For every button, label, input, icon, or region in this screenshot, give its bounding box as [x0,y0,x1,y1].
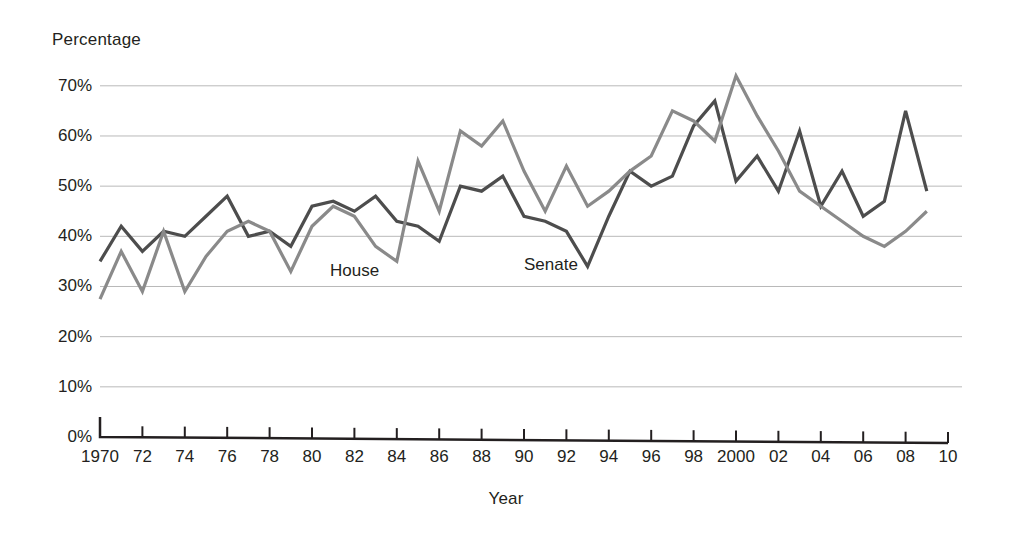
x-axis-tick-label: 1970 [81,447,119,467]
x-axis-tick-label: 98 [684,447,703,467]
y-axis-tick-label: 70% [40,76,92,96]
x-axis-tick-label: 04 [811,447,830,467]
x-axis-tick-label: 06 [854,447,873,467]
x-axis-tick-label: 10 [939,447,958,467]
x-axis-tick-label: 74 [175,447,194,467]
y-axis-tick-label: 30% [40,276,92,296]
gridlines [100,86,962,387]
x-axis-tick-label: 80 [303,447,322,467]
y-axis-tick-label: 50% [40,176,92,196]
series-line-house [100,101,927,267]
x-axis-tick-label: 88 [472,447,491,467]
series-line-senate [100,76,927,299]
y-axis-tick-label: 20% [40,327,92,347]
x-axis-tick-label: 72 [133,447,152,467]
y-axis-tick-label: 0% [40,427,92,447]
x-axis-tick-label: 94 [599,447,618,467]
y-axis-tick-label: 60% [40,126,92,146]
x-axis-tick-label: 82 [345,447,364,467]
x-axis-tick-label: 2000 [717,447,755,467]
y-axis-tick-label: 10% [40,377,92,397]
x-axis-tick-label: 78 [260,447,279,467]
x-axis-tick-label: 76 [218,447,237,467]
series-label-house: House [330,261,379,281]
data-series [100,76,927,299]
x-axis-tick-label: 92 [557,447,576,467]
x-axis-tick-label: 96 [642,447,661,467]
y-axis-tick-label: 40% [40,226,92,246]
x-axis-tick-label: 08 [896,447,915,467]
x-axis-tick-label: 84 [387,447,406,467]
x-axis-tick-label: 86 [430,447,449,467]
chart-container: Percentage Year 0%10%20%30%40%50%60%70% … [0,0,1012,543]
x-axis-tick-label: 90 [515,447,534,467]
x-axis-tick-label: 02 [769,447,788,467]
series-label-senate: Senate [524,255,578,275]
